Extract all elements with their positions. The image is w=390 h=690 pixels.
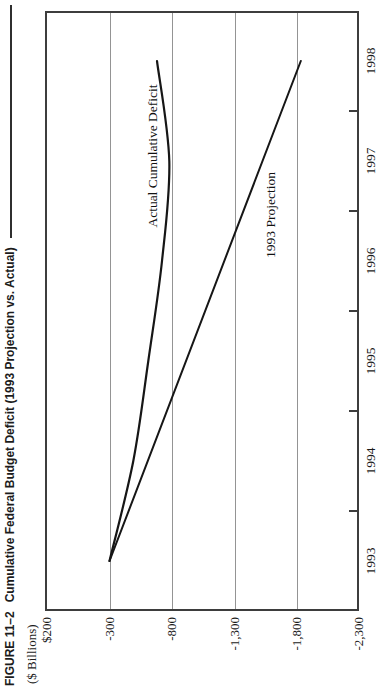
chart-canvas xyxy=(0,0,390,690)
projection-series-label: 1993 Projection xyxy=(263,172,279,258)
actual-series-label: Actual Cumulative Deficit xyxy=(145,84,161,227)
projection-line xyxy=(110,61,301,561)
scanned-figure-page: FIGURE 11–2 Cumulative Federal Budget De… xyxy=(0,0,390,690)
rotated-figure: FIGURE 11–2 Cumulative Federal Budget De… xyxy=(0,0,390,690)
